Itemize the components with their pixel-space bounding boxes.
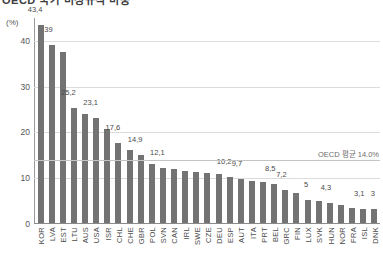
bar-value-label: 4,3 <box>321 183 331 193</box>
x-category-label: ISR <box>103 227 112 240</box>
x-category-label: PRT <box>259 227 268 243</box>
bar <box>115 143 121 223</box>
x-label-slot: FIN <box>292 226 303 267</box>
bar-slot <box>291 18 302 223</box>
x-label-slot: ISL <box>359 226 370 267</box>
bar <box>138 155 144 223</box>
bar-slot <box>202 18 213 223</box>
bar-slot <box>124 18 135 223</box>
bar <box>127 150 133 223</box>
bar-value-label: 23,1 <box>83 98 98 108</box>
y-tick-label: 20 <box>6 127 30 137</box>
x-label-slot: FRA <box>347 226 358 267</box>
bar-value-label: 3,1 <box>354 189 364 199</box>
x-label-slot: AUS <box>80 226 91 267</box>
y-tick-label: 30 <box>6 82 30 92</box>
x-category-label: AUS <box>81 227 90 243</box>
x-category-label: CHE <box>125 227 134 244</box>
x-label-slot: SVK <box>314 226 325 267</box>
y-tick-label: 0 <box>6 219 30 229</box>
bar-slot <box>80 18 91 223</box>
bar-value-label: 12,1 <box>150 148 165 158</box>
bar-value-label: 8,5 <box>265 164 275 174</box>
bar <box>238 179 244 223</box>
x-label-slot: SVN <box>158 226 169 267</box>
bar-chart: OECD 국가 비정규직 비중 (%) 010203040 43,43925,2… <box>0 0 383 267</box>
bar-value-label: 10,2 <box>217 157 232 167</box>
bar-slot <box>102 18 113 223</box>
chart-title-cropped: OECD 국가 비정규직 비중 <box>0 0 383 8</box>
x-label-slot: BEL <box>269 226 280 267</box>
x-label-slot: POL <box>147 226 158 267</box>
x-label-slot: CAN <box>169 226 180 267</box>
bar-slot: 10,2 <box>224 18 235 223</box>
bar-slot: 12,1 <box>157 18 168 223</box>
bar <box>216 174 222 223</box>
x-label-slot: HUN <box>325 226 336 267</box>
bar-slot <box>180 18 191 223</box>
x-category-label: GBR <box>136 227 145 244</box>
bar-slot: 25,2 <box>68 18 79 223</box>
x-category-label: BEL <box>270 227 279 242</box>
bar-slot <box>169 18 180 223</box>
bar <box>182 171 188 223</box>
x-category-label: HUN <box>326 227 335 244</box>
x-category-label: GRC <box>282 227 291 245</box>
oecd-average-label: OECD 평균 14.0% <box>318 148 379 160</box>
x-label-slot: EST <box>57 226 68 267</box>
bar-value-label: 17,6 <box>106 123 121 133</box>
bar <box>271 184 277 223</box>
bar-series: 43,43925,223,117,614,912,110,29,78,57,25… <box>35 18 380 223</box>
x-label-slot: ISR <box>102 226 113 267</box>
x-category-label: ISL <box>360 227 369 239</box>
x-label-slot: AUT <box>236 226 247 267</box>
bar <box>360 209 366 223</box>
x-label-slot: NOR <box>336 226 347 267</box>
x-category-label: DNK <box>371 227 380 244</box>
bar <box>260 182 266 223</box>
x-label-slot: CHL <box>113 226 124 267</box>
bar-slot: 5 <box>302 18 313 223</box>
bar-slot: 23,1 <box>91 18 102 223</box>
bar <box>49 45 55 223</box>
bar-value-label: 43,4 <box>28 5 43 15</box>
bar <box>93 118 99 223</box>
bar-slot <box>191 18 202 223</box>
x-category-label: NOR <box>337 227 346 245</box>
x-label-slot: ITA <box>247 226 258 267</box>
bar-slot: 3 <box>369 18 380 223</box>
bar-slot <box>146 18 157 223</box>
bar <box>293 193 299 223</box>
x-category-label: CAN <box>170 227 179 244</box>
bar-value-label: 5 <box>304 180 308 190</box>
bar-slot: 3,1 <box>358 18 369 223</box>
y-axis-ticks: 010203040 <box>0 18 30 224</box>
x-label-slot: LVA <box>46 226 57 267</box>
bar <box>82 114 88 223</box>
bar-slot: 43,4 <box>35 18 46 223</box>
bar <box>371 209 377 223</box>
x-label-slot: GRC <box>280 226 291 267</box>
x-category-label: LUX <box>304 227 313 243</box>
plot-area: 43,43925,223,117,614,912,110,29,78,57,25… <box>34 18 380 224</box>
x-label-slot: USA <box>91 226 102 267</box>
bar-slot: 9,7 <box>235 18 246 223</box>
x-axis-category-labels: KORLVAESTLTUAUSUSAISRCHLCHEGBRPOLSVNCANI… <box>35 226 381 267</box>
x-category-label: IRL <box>181 227 190 240</box>
bar <box>60 52 66 223</box>
x-category-label: CHL <box>114 227 123 243</box>
bar-value-label: 25,2 <box>61 88 76 98</box>
x-category-label: ESP <box>226 227 235 243</box>
x-label-slot: CHE <box>124 226 135 267</box>
bar <box>327 203 333 223</box>
x-category-label: SVK <box>315 227 324 243</box>
bar <box>149 164 155 223</box>
bar-slot <box>213 18 224 223</box>
bar <box>282 190 288 223</box>
x-label-slot: LTU <box>68 226 79 267</box>
bar-slot <box>246 18 257 223</box>
bar <box>71 108 77 223</box>
x-label-slot: DNK <box>370 226 381 267</box>
x-label-slot: DEU <box>214 226 225 267</box>
bar <box>227 177 233 223</box>
